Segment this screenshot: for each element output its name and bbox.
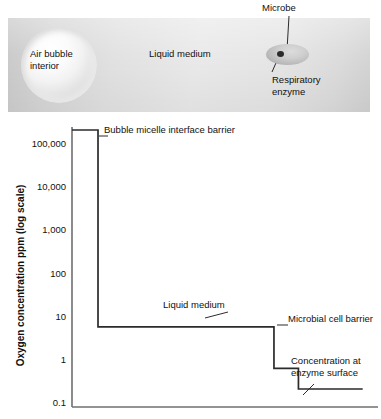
annotation-enzyme-concentration-line1: Concentration at — [291, 355, 361, 366]
concentration-step-curve — [72, 130, 363, 389]
microbe-label: Microbe — [262, 2, 296, 13]
oxygen-concentration-chart: Oxygen concentration ppm (log scale) 100… — [0, 122, 381, 419]
liquid-medium-leader — [205, 312, 228, 318]
respiratory-enzyme-label-line2: enzyme — [272, 86, 305, 97]
microbe-cell — [266, 44, 309, 65]
annotation-bubble-barrier: Bubble micelle interface barrier — [104, 124, 235, 136]
respiratory-enzyme-dot — [277, 51, 284, 57]
annotation-liquid-medium: Liquid medium — [163, 299, 225, 311]
annotation-enzyme-concentration-line2: enzyme surface — [291, 367, 358, 378]
annotation-cell-barrier: Microbial cell barrier — [288, 313, 373, 325]
respiratory-enzyme-label-line1: Respiratory — [272, 74, 321, 85]
illustration-panel: Air bubble interior Liquid medium Microb… — [0, 0, 381, 122]
air-bubble-label: Air bubble interior — [30, 48, 94, 71]
annotation-enzyme-concentration: Concentration at enzyme surface — [291, 355, 361, 378]
liquid-medium-label: Liquid medium — [149, 48, 211, 59]
respiratory-enzyme-label: Respiratory enzyme — [272, 74, 321, 97]
